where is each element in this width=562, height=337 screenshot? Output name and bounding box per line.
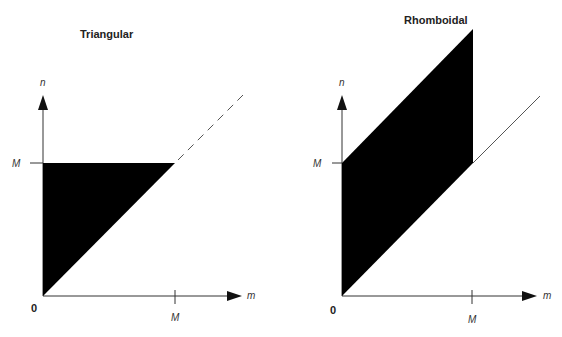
feasible-region <box>342 29 473 296</box>
x-tick-label: M <box>171 312 180 323</box>
y-axis-arrow-icon <box>337 95 347 110</box>
y-tick-label: M <box>313 158 322 169</box>
origin-label: 0 <box>330 304 336 316</box>
y-axis-arrow-icon <box>38 95 48 110</box>
x-axis-label: m <box>247 290 255 301</box>
diagonal-extension-solid <box>473 96 540 163</box>
x-tick-label: M <box>468 314 477 325</box>
x-axis-label: m <box>543 290 551 301</box>
y-tick-label: M <box>12 158 21 169</box>
panel-rhomboidal: Rhomboidal n m M M 0 <box>313 14 551 325</box>
y-axis-label: n <box>40 77 46 88</box>
x-axis-arrow-icon <box>227 291 242 301</box>
origin-label: 0 <box>31 302 37 314</box>
panel-triangular: Triangular n m M M 0 <box>12 28 255 323</box>
x-axis-arrow-icon <box>522 291 537 301</box>
y-axis-label: n <box>339 77 345 88</box>
diagram-canvas: Triangular n m M M 0 Rhomboidal n m M <box>0 0 562 337</box>
panel-title: Rhomboidal <box>404 14 468 26</box>
feasible-region <box>43 163 175 296</box>
panel-title: Triangular <box>80 28 134 40</box>
diagonal-extension-dashed <box>178 95 243 160</box>
